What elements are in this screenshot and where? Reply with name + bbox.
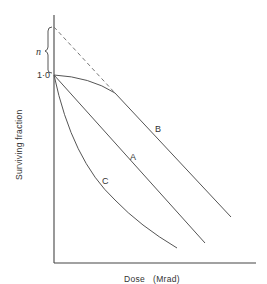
curve-b: [54, 75, 231, 217]
survival-curves-chart: 1·0 n B A C Dose (Mrad) Surviving fracti…: [0, 0, 267, 284]
n-brace: [45, 27, 52, 73]
x-axis-title: Dose (Mrad): [124, 274, 180, 284]
n-label: n: [36, 46, 41, 57]
extrapolation-line: [54, 27, 115, 93]
curve-c: [54, 75, 177, 248]
curve-a-label: A: [130, 152, 136, 162]
curve-c-label: C: [102, 176, 109, 186]
y-axis-title: Surviving fraction: [14, 109, 24, 180]
curve-b-label: B: [155, 124, 161, 134]
